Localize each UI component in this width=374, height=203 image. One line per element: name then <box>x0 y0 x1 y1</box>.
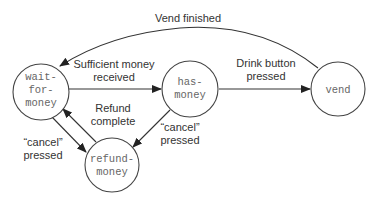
label-wait-cancel-line2: pressed <box>23 149 62 161</box>
label-drink-button-line1: Drink button <box>236 57 295 69</box>
transition-drink-button: Drink button pressed <box>219 57 310 89</box>
state-label-has-line1: has- <box>177 76 202 88</box>
label-refund-complete-line2: complete <box>91 115 136 127</box>
label-has-cancel-line2: pressed <box>160 134 199 146</box>
state-label-wait-line3: money <box>25 97 57 109</box>
state-has-money: has- money <box>162 61 218 117</box>
transition-sufficient-money: Sufficient money received <box>69 58 161 89</box>
state-circle-refund-money <box>85 138 139 192</box>
label-vend-finished: Vend finished <box>155 12 221 24</box>
transition-refund-complete: Refund complete <box>63 102 135 142</box>
state-wait-for-money: wait- for- money <box>13 64 69 120</box>
transition-wait-cancel: “cancel” pressed <box>23 117 86 161</box>
state-label-refund-line2: money <box>96 166 128 178</box>
label-drink-button-line2: pressed <box>246 70 285 82</box>
state-diagram: Vend finished Sufficient money received … <box>0 0 374 203</box>
state-label-wait-line1: wait- <box>25 71 57 83</box>
label-refund-complete-line1: Refund <box>95 102 130 114</box>
label-wait-cancel-line1: “cancel” <box>23 136 62 148</box>
label-sufficient-money-line2: received <box>93 71 135 83</box>
state-vend: vend <box>311 62 365 116</box>
label-sufficient-money-line1: Sufficient money <box>73 58 155 70</box>
state-label-vend: vend <box>325 84 350 96</box>
label-has-cancel-line1: “cancel” <box>160 121 199 133</box>
state-label-has-line2: money <box>174 89 206 101</box>
state-label-wait-line2: for- <box>28 84 53 96</box>
state-label-refund-line1: refund- <box>90 153 134 165</box>
state-refund-money: refund- money <box>85 138 139 192</box>
